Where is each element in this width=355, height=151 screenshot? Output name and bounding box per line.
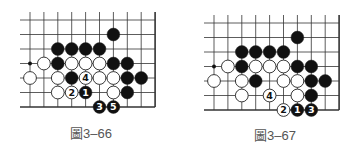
black-stone bbox=[249, 75, 262, 88]
black-stone bbox=[277, 46, 290, 59]
caption-3-66: 圖3–66 bbox=[70, 123, 112, 142]
white-stone bbox=[291, 89, 304, 102]
black-stone-move-1: 1 bbox=[291, 104, 304, 117]
white-stone bbox=[291, 75, 304, 88]
move-number: 1 bbox=[294, 104, 301, 115]
white-stone bbox=[277, 60, 290, 73]
black-stone bbox=[235, 46, 248, 59]
star-point bbox=[212, 65, 216, 69]
move-number: 3 bbox=[308, 104, 315, 115]
black-stone bbox=[291, 60, 304, 73]
black-stone bbox=[249, 46, 262, 59]
white-stone bbox=[208, 75, 221, 88]
white-stone-move-4: 4 bbox=[263, 89, 276, 102]
go-board-3-67: 4213 bbox=[0, 0, 355, 125]
black-stone bbox=[263, 46, 276, 59]
white-stone bbox=[277, 75, 290, 88]
black-stone bbox=[319, 75, 332, 88]
go-diagram-3-67: 4213 bbox=[0, 0, 355, 125]
black-stone bbox=[305, 75, 318, 88]
white-stone bbox=[235, 89, 248, 102]
black-stone bbox=[291, 31, 304, 44]
black-stone bbox=[305, 60, 318, 73]
white-stone-move-2: 2 bbox=[277, 104, 290, 117]
black-stone bbox=[235, 60, 248, 73]
black-stone bbox=[305, 89, 318, 102]
move-number: 2 bbox=[280, 104, 287, 115]
white-stone bbox=[263, 60, 276, 73]
white-stone bbox=[249, 60, 262, 73]
white-stone bbox=[222, 60, 235, 73]
move-number: 4 bbox=[266, 90, 273, 101]
black-stone-move-3: 3 bbox=[305, 104, 318, 117]
caption-3-67: 圖3–67 bbox=[254, 125, 296, 144]
white-stone bbox=[235, 75, 248, 88]
